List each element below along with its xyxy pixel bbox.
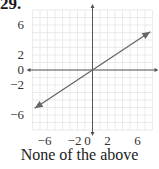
svg-text:−6: −6 xyxy=(10,107,24,122)
svg-text:2: 2 xyxy=(18,47,25,62)
coordinate-plot: 620−2−6−6−2026 xyxy=(0,0,159,169)
svg-text:6: 6 xyxy=(18,17,25,32)
tick-labels: 620−2−6−6−2026 xyxy=(10,17,141,148)
answer-caption: None of the above xyxy=(0,146,159,164)
svg-text:−2: −2 xyxy=(10,77,24,92)
svg-text:0: 0 xyxy=(18,62,25,77)
